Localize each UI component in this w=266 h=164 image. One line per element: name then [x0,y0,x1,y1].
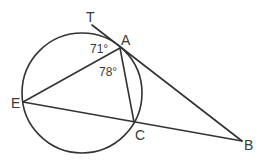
point-label-C: C [135,127,145,143]
secant-EB [23,102,242,141]
point-label-E: E [11,95,20,111]
angle-label-78: 78° [99,65,117,79]
point-label-A: A [121,32,131,48]
angle-label-71: 71° [90,42,108,56]
point-label-B: B [244,137,253,153]
geometry-diagram: T A E C B 71° 78° [0,0,266,164]
tangent-line-TB [92,25,242,141]
point-label-T: T [86,9,95,25]
